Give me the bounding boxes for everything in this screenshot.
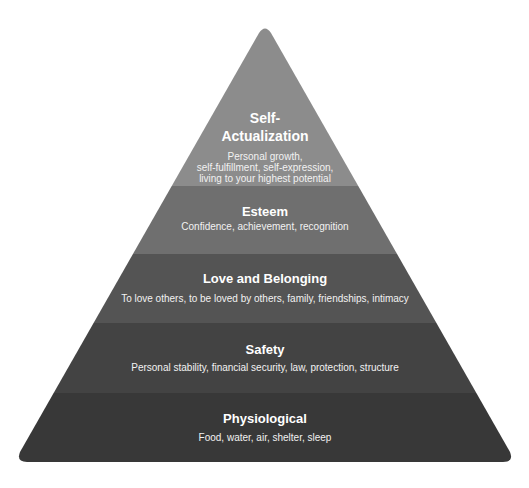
tier-description-self-actualization: living to your highest potential [199,173,331,184]
tier-title-love-and-belonging: Love and Belonging [203,271,327,286]
tier-title-physiological: Physiological [223,411,307,426]
tier-esteem [0,186,529,254]
tier-description-self-actualization: Personal growth, [227,151,302,162]
tier-title-esteem: Esteem [242,204,288,219]
tier-title-self-actualization: Self- [250,110,281,126]
tier-description-safety: Personal stability, financial security, … [131,362,399,373]
tier-description-esteem: Confidence, achievement, recognition [181,221,348,232]
tier-description-physiological: Food, water, air, shelter, sleep [199,432,332,443]
tier-physiological [0,393,529,462]
tier-safety [0,323,529,393]
needs-pyramid: Self-ActualizationPersonal growth,self-f… [0,0,529,488]
tier-description-self-actualization: self-fulfillment, self-expression, [197,162,334,173]
tier-title-safety: Safety [245,342,285,357]
tier-title-self-actualization: Actualization [221,128,308,144]
tier-love-and-belonging [0,254,529,323]
tier-description-love-and-belonging: To love others, to be loved by others, f… [121,293,409,304]
